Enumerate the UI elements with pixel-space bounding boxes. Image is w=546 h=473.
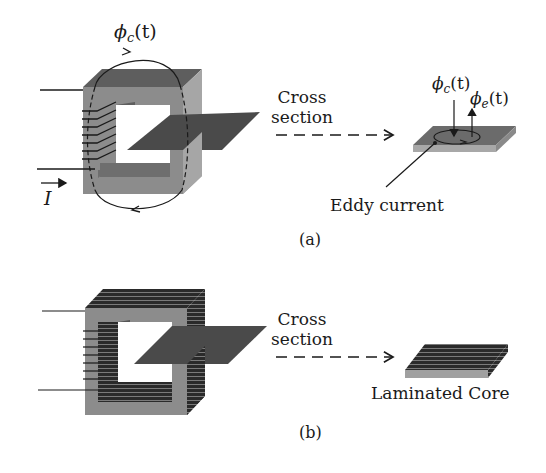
laminated-core-label: Laminated Core: [371, 383, 510, 403]
cross-section-label-a-line2: section: [271, 107, 333, 127]
core-flux-label: ϕc(t): [114, 20, 157, 45]
cross-section-label-b-line2: section: [271, 329, 333, 349]
eddy-flux-label: ϕe(t): [470, 88, 509, 111]
laminated-cross-section-slab: [405, 344, 508, 378]
panel-b: Cross section Laminated Core (b): [38, 289, 510, 442]
transformer-eddy-current-diagram: I ϕc(t) Cross section: [0, 0, 546, 473]
eddy-current-pointer: [386, 143, 435, 187]
current-label: I: [43, 187, 52, 209]
panel-a: I ϕc(t) Cross section: [37, 20, 516, 249]
caption-a: (a): [299, 230, 321, 249]
caption-b: (b): [299, 423, 322, 442]
eddy-current-label: Eddy current: [330, 195, 444, 215]
cross-section-label-a-line1: Cross: [278, 87, 327, 107]
cross-core-flux-label: ϕc(t): [432, 73, 470, 96]
cross-section-label-b-line1: Cross: [278, 309, 327, 329]
